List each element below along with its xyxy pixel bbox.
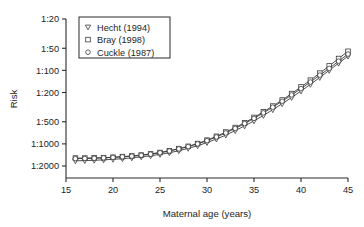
x-tick-label: 25 (155, 185, 165, 195)
data-point-marker (186, 144, 191, 149)
data-point-marker (139, 153, 144, 158)
data-point-marker (252, 116, 257, 121)
data-point-marker (83, 156, 88, 161)
data-point-marker (346, 52, 351, 57)
y-tick-label: 1:2000 (31, 161, 59, 171)
data-point-marker (111, 155, 116, 160)
data-point-marker (205, 138, 210, 143)
data-point-marker (318, 73, 323, 78)
data-point-marker (167, 149, 172, 154)
data-point-marker (92, 156, 97, 161)
x-tick-label: 20 (108, 185, 118, 195)
risk-vs-maternal-age-chart: 1:201:501:1001:2001:5001:10001:2000 1520… (0, 0, 364, 227)
data-point-marker (120, 155, 125, 160)
chart-figure: 1:201:501:1001:2001:5001:10001:2000 1520… (0, 0, 364, 227)
x-tick-label: 30 (202, 185, 212, 195)
data-point-marker (214, 135, 219, 140)
data-point-marker (158, 150, 163, 155)
data-point-marker (280, 99, 285, 104)
y-tick-label: 1:100 (36, 66, 59, 76)
data-point-marker (148, 152, 153, 157)
data-point-marker (299, 86, 304, 91)
data-point-marker (101, 156, 106, 161)
x-tick-label: 15 (61, 185, 71, 195)
legend-marker-circle-icon (86, 50, 91, 55)
data-point-marker (195, 142, 200, 147)
data-point-marker (233, 126, 238, 131)
x-tick-label: 35 (249, 185, 259, 195)
chart-background (0, 0, 364, 227)
y-tick-label: 1:500 (36, 117, 59, 127)
legend-label[interactable]: Cuckle (1987) (97, 48, 154, 58)
x-tick-label: 40 (296, 185, 306, 195)
data-point-marker (271, 105, 276, 110)
data-point-marker (308, 80, 313, 85)
data-point-marker (336, 59, 341, 64)
y-tick-label: 1:50 (41, 44, 59, 54)
legend-marker-square-icon (86, 37, 91, 42)
data-point-marker (261, 111, 266, 116)
data-point-marker (242, 121, 247, 126)
data-point-marker (224, 131, 229, 136)
chart-legend[interactable]: Hecht (1994)Bray (1998)Cuckle (1987) (79, 17, 170, 58)
y-tick-label: 1:1000 (31, 139, 59, 149)
x-axis-title: Maternal age (years) (163, 208, 252, 219)
legend-label[interactable]: Hecht (1994) (97, 23, 150, 33)
data-point-marker (327, 66, 332, 71)
x-tick-label: 45 (343, 185, 353, 195)
data-point-marker (177, 147, 182, 152)
y-tick-label: 1:20 (41, 14, 59, 24)
data-point-marker (289, 93, 294, 98)
data-point-marker (130, 154, 135, 159)
legend-label[interactable]: Bray (1998) (97, 35, 145, 45)
y-axis-title: Risk (8, 89, 19, 108)
y-tick-label: 1:200 (36, 88, 59, 98)
data-point-marker (73, 156, 78, 161)
